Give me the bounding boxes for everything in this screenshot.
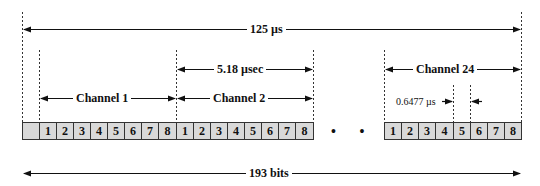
ch2-bit-cell: 7 [278,122,296,140]
ch24-bit-cell: 3 [418,122,436,140]
ch24-bit-cell: 2 [401,122,419,140]
channel2-label: Channel 2 [210,91,268,105]
ch24-bit-cell: 8 [504,122,522,140]
ch1-bit-cell: 8 [158,122,177,140]
ch24-bit-cell: 1 [384,122,402,140]
channel1-label: Channel 1 [73,91,131,105]
ch1-bit-cell: 3 [73,122,91,140]
ch2-bit-cell: 6 [261,122,279,140]
ch1-bit-cell: 1 [39,122,57,140]
ch2-bit-cell: 3 [210,122,228,140]
t1-frame-diagram: 125 µs 5.18 µsec Channel 1 Channel 2 Cha… [0,0,540,186]
ch1-bit-cell: 6 [124,122,142,140]
ch2-bit-cell: 1 [176,122,194,140]
ch24-bit-cell: 5 [453,122,471,140]
ch1-bit-cell: 2 [56,122,74,140]
ch2-bit-cell: 2 [193,122,211,140]
framing-bit-cell [22,122,40,140]
ch1-bit-cell: 7 [141,122,159,140]
ch2-bit-cell: 8 [295,122,314,140]
ch24-bit-cell: 4 [435,122,454,140]
bit-duration-label: 0.6477 µs [396,95,436,109]
ch24-bit-cell: 6 [470,122,488,140]
frame-duration-label: 125 µs [247,22,286,36]
ch1-bit-cell: 5 [107,122,125,140]
channel24-label: Channel 24 [413,62,477,76]
frame-bits-label: 193 bits [246,166,292,180]
channel-duration-label: 5.18 µsec [214,62,266,76]
ch24-bit-cell: 7 [487,122,505,140]
ch1-bit-cell: 4 [90,122,108,140]
ch2-bit-cell: 5 [244,122,262,140]
ch2-bit-cell: 4 [227,122,245,140]
